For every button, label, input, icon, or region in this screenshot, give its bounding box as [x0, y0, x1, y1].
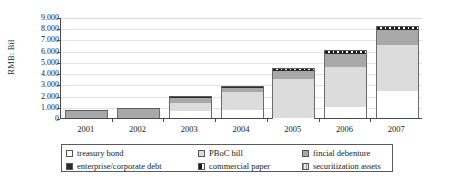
- x-tick-mark: [215, 119, 216, 122]
- bar-segment-treasury-bond-2004: [221, 110, 264, 118]
- bar-top-edge-2005: [272, 68, 315, 69]
- bar-segment-fincial-debenture-2004: [221, 88, 264, 93]
- bar-top-edge-2002: [117, 108, 160, 109]
- y-tick-label: 8.000: [19, 25, 59, 33]
- bar-stack-2003: [169, 17, 212, 118]
- bar-stack-2006: [324, 17, 367, 118]
- securitization-assets-swatch: [302, 163, 309, 170]
- bar-stack-2005: [272, 17, 315, 118]
- legend-label-enterprise-corporate-debt: enterprise/corporate debt: [77, 162, 162, 171]
- bar-segment-fincial-debenture-2001: [65, 111, 108, 118]
- legend-item-securitization-assets: securitization assets: [302, 162, 381, 171]
- bar-segment-fincial-debenture-2006: [324, 54, 367, 66]
- bar-top-edge-2001: [65, 110, 108, 111]
- plot-area: [60, 18, 422, 119]
- y-tick-mark: [57, 85, 60, 86]
- bar-segment-fincial-debenture-2007: [376, 30, 419, 45]
- y-tick-mark: [57, 74, 60, 75]
- bar-top-edge-2007: [376, 26, 419, 27]
- legend-row-top: treasury bond PBoC bill fincial debentur…: [66, 147, 388, 160]
- y-tick-label: 0: [19, 115, 59, 123]
- bar-segment-treasury-bond-2006: [324, 107, 367, 118]
- y-tick-mark: [57, 97, 60, 98]
- x-tick-mark: [319, 119, 320, 122]
- y-axis-title: RMB: Bil: [6, 27, 16, 87]
- legend-label-pboc-bill: PBoC bill: [209, 149, 243, 158]
- bar-segment-enterprise-corporate-debt-2006: [324, 53, 367, 54]
- bar-segment-treasury-bond-2007: [376, 91, 419, 118]
- y-tick-mark: [57, 63, 60, 64]
- legend-item-pboc-bill: PBoC bill: [198, 149, 302, 158]
- y-tick-label: 7.000: [19, 36, 59, 44]
- legend-item-fincial-debenture: fincial debenture: [302, 149, 370, 158]
- y-tick-label: 1.000: [19, 104, 59, 112]
- fincial-debenture-swatch: [302, 150, 309, 157]
- bar-segment-fincial-debenture-2005: [272, 71, 315, 79]
- legend-label-securitization-assets: securitization assets: [313, 162, 381, 171]
- bar-segment-pboc-bill-2004: [221, 92, 264, 110]
- x-tick-mark: [267, 119, 268, 122]
- y-tick-mark: [57, 29, 60, 30]
- bar-segment-fincial-debenture-2003: [169, 98, 212, 103]
- bar-stack-2004: [221, 17, 264, 118]
- pboc-bill-swatch: [198, 150, 205, 157]
- y-tick-mark: [57, 108, 60, 109]
- y-tick-label: 3.000: [19, 81, 59, 89]
- legend-label-commercial-paper: commercial paper: [209, 162, 270, 171]
- stacked-bar-chart: RMB: Bil 9.0008.0007.0006.0005.0004.0003…: [0, 0, 454, 183]
- y-tick-label: 6.000: [19, 48, 59, 56]
- y-tick-label: 5.000: [19, 59, 59, 67]
- x-tick-mark: [370, 119, 371, 122]
- x-tick-mark: [112, 119, 113, 122]
- bar-stack-2007: [376, 17, 419, 118]
- bar-stack-2001: [65, 17, 108, 118]
- enterprise-corporate-debt-swatch: [66, 163, 73, 170]
- y-tick-mark: [57, 52, 60, 53]
- y-tick-mark: [57, 40, 60, 41]
- bar-segment-pboc-bill-2003: [169, 103, 212, 111]
- y-tick-label: 9.000: [19, 14, 59, 22]
- bar-segment-pboc-bill-2007: [376, 45, 419, 92]
- bar-segment-pboc-bill-2005: [272, 79, 315, 118]
- legend-row-bottom: enterprise/corporate debt commercial pap…: [66, 160, 388, 173]
- bar-segment-pboc-bill-2006: [324, 67, 367, 107]
- bar-top-edge-2004: [221, 86, 264, 87]
- y-tick-mark: [57, 119, 60, 120]
- y-tick-label: 4.000: [19, 70, 59, 78]
- legend-item-treasury-bond: treasury bond: [66, 149, 198, 158]
- chart-legend: treasury bond PBoC bill fincial debentur…: [61, 144, 393, 172]
- legend-label-fincial-debenture: fincial debenture: [313, 149, 370, 158]
- legend-label-treasury-bond: treasury bond: [77, 149, 124, 158]
- bar-stack-2002: [117, 17, 160, 118]
- bar-top-edge-2006: [324, 50, 367, 51]
- bar-segment-fincial-debenture-2002: [117, 109, 160, 118]
- treasury-bond-swatch: [66, 150, 73, 157]
- x-tick-mark: [163, 119, 164, 122]
- x-tick-label-2007: 2007: [366, 124, 426, 134]
- legend-item-enterprise-corporate-debt: enterprise/corporate debt: [66, 162, 198, 171]
- commercial-paper-swatch: [198, 163, 205, 170]
- bar-segment-treasury-bond-2003: [169, 111, 212, 118]
- y-tick-mark: [57, 18, 60, 19]
- bar-segment-enterprise-corporate-debt-2005: [272, 70, 315, 71]
- bar-segment-enterprise-corporate-debt-2007: [376, 29, 419, 30]
- y-tick-label: 2.000: [19, 93, 59, 101]
- legend-item-commercial-paper: commercial paper: [198, 162, 302, 171]
- bar-top-edge-2003: [169, 96, 212, 97]
